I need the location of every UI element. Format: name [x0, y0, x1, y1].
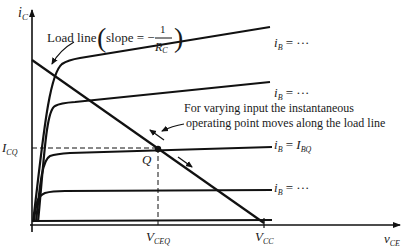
x-axis-label: vCE	[384, 231, 400, 248]
slope-label: slope = −	[106, 30, 155, 45]
curve-label-4: iB = ···	[274, 180, 309, 197]
curve-label-1: iB = ···	[274, 35, 309, 52]
vcc-label: VCC	[255, 229, 274, 246]
icq-label: ICQ	[1, 140, 18, 157]
slope-numerator: 1	[160, 23, 166, 35]
y-axis-label: iC	[18, 5, 29, 22]
arrow-up-along-load-line	[150, 130, 164, 140]
slope-denominator: RC	[154, 40, 168, 55]
vceq-label: VCEQ	[146, 229, 170, 246]
ib-curve-3-ibq	[36, 147, 272, 222]
ib-curve-4	[34, 190, 272, 222]
q-point-marker	[155, 146, 161, 152]
curve-label-2: iB = ···	[274, 85, 309, 102]
q-point-label: Q	[142, 152, 152, 167]
load-line-label: Load line	[47, 30, 97, 45]
slope-close-paren: )	[174, 22, 183, 53]
curve-label-ibq: iB = IBQ	[274, 137, 312, 154]
slope-open-paren: (	[97, 22, 106, 53]
ib-curve-5	[32, 220, 272, 221]
load-line-diagram: iC vCE Load line ( slope = − 1 RC ) iB =…	[0, 0, 406, 249]
load-line	[32, 60, 264, 223]
annotation-line-1: For varying input the instantaneous	[184, 101, 354, 115]
annotation-line-2: operating point moves along the load lin…	[186, 116, 385, 130]
operating-point-pointer-arrow	[162, 124, 184, 131]
arrow-down-along-load-line	[178, 157, 192, 167]
